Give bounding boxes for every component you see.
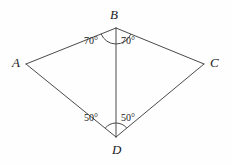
vertex-label-b: B [110,8,118,21]
geometry-canvas [0,0,231,165]
geometry-figure: A B C D 70° 70° 50° 50° [0,0,231,165]
angle-label-adb: 50° [84,113,98,123]
segment-DA [26,64,116,137]
vertex-label-c: C [210,56,219,69]
vertex-label-a: A [12,56,20,69]
segment-CD [116,64,204,137]
vertex-label-d: D [112,143,121,156]
angle-label-bdc: 50° [121,113,135,123]
angle-label-dbc: 70° [121,36,135,46]
segment-AB [26,28,116,64]
angle-label-abd: 70° [84,36,98,46]
segment-BC [116,28,204,64]
